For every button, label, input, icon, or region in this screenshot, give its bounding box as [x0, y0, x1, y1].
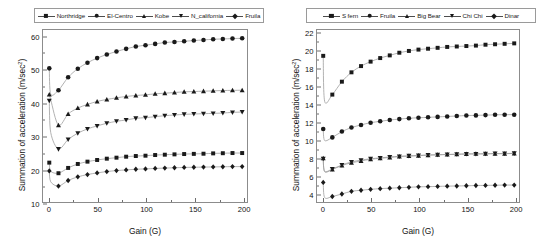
x-tick-label: 100	[140, 205, 153, 214]
legend-entry-fruila[interactable]: Fruila	[226, 11, 260, 20]
x-minor-tick	[220, 200, 221, 202]
y-tick-label: 40	[31, 99, 39, 108]
data-point	[153, 166, 158, 171]
x-minor-tick	[122, 200, 123, 202]
data-point	[321, 127, 326, 132]
legend-label: Fruila	[245, 12, 260, 19]
data-point	[105, 52, 110, 57]
data-point	[240, 164, 245, 169]
legend-marker-diamond-icon	[226, 11, 243, 20]
data-point	[512, 41, 516, 45]
y-tick	[317, 50, 321, 51]
data-point	[56, 183, 61, 188]
data-point	[211, 151, 215, 155]
data-point	[359, 64, 363, 68]
data-point	[321, 54, 325, 58]
data-point	[426, 115, 431, 120]
x-tick	[323, 198, 324, 202]
y-tick	[317, 176, 321, 177]
y-minor-tick	[43, 120, 45, 121]
data-point	[231, 151, 235, 155]
y-minor-tick	[317, 167, 319, 168]
legend-label: Chi Chi	[463, 12, 483, 19]
data-point	[378, 56, 382, 60]
series-fruila	[47, 164, 244, 189]
data-point	[182, 165, 187, 170]
data-point	[66, 75, 71, 80]
legend-marker-triangle-up-icon	[398, 11, 415, 20]
x-tick	[244, 198, 245, 202]
legend-marker-circle-icon	[361, 11, 378, 20]
x-minor-tick	[347, 200, 348, 202]
legend-marker-triangle-up-icon	[136, 11, 153, 20]
data-point	[388, 53, 392, 57]
y-tick	[317, 86, 321, 87]
chart-panel-left: NorthridgeEl-CentroKobeN_californiaFruil…	[0, 0, 272, 249]
data-point	[211, 37, 216, 42]
y-minor-tick	[317, 95, 319, 96]
x-minor-tick	[171, 200, 172, 202]
series-fruila	[321, 112, 517, 140]
legend-entry-kobe[interactable]: Kobe	[136, 11, 169, 20]
data-point	[484, 43, 488, 47]
data-point	[56, 171, 60, 175]
marker-glyph	[142, 14, 146, 18]
x-tick-label: 50	[367, 205, 375, 214]
legend-entry-big-bear[interactable]: Big Bear	[398, 11, 440, 20]
data-point	[201, 38, 206, 43]
data-point	[182, 39, 187, 44]
data-point	[426, 184, 431, 189]
data-point	[455, 45, 459, 49]
data-point	[230, 164, 235, 169]
data-point	[369, 60, 373, 64]
data-point	[76, 162, 80, 166]
series-northridge	[47, 151, 244, 175]
data-point	[75, 131, 80, 136]
legend-entry-s-fern[interactable]: S fern	[323, 11, 358, 20]
data-point	[95, 56, 100, 61]
data-point	[512, 112, 517, 117]
x-tick-label: 150	[189, 205, 202, 214]
data-point	[173, 152, 177, 156]
x-minor-tick	[73, 200, 74, 202]
legend-entry-chi-chi[interactable]: Chi Chi	[444, 11, 483, 20]
legend-entry-northridge[interactable]: Northridge	[38, 11, 85, 20]
y-tick	[317, 104, 321, 105]
y-minor-tick	[43, 187, 45, 188]
x-minor-tick	[395, 200, 396, 202]
data-point	[95, 158, 99, 162]
data-point	[163, 40, 168, 45]
y-minor-tick	[317, 41, 319, 42]
data-point	[340, 191, 345, 196]
legend-entry-n-california[interactable]: N_california	[172, 11, 223, 20]
data-point	[330, 135, 335, 140]
x-tick	[371, 198, 372, 202]
legend-marker-square-icon	[323, 11, 340, 20]
x-minor-tick	[444, 200, 445, 202]
y-axis-label-right: Summation of acceleration (m/sec2)	[291, 45, 302, 205]
data-point	[493, 183, 498, 188]
data-point	[201, 164, 206, 169]
marker-glyph	[367, 13, 372, 18]
data-point	[378, 119, 383, 124]
y-tick-label: 30	[31, 133, 39, 142]
data-point	[416, 116, 421, 121]
data-point	[416, 48, 420, 52]
data-point	[474, 113, 479, 118]
x-tick	[468, 198, 469, 202]
y-tick	[43, 170, 47, 171]
data-point	[114, 49, 119, 54]
data-point	[435, 184, 440, 189]
data-point	[349, 189, 354, 194]
legend-entry-el-centro[interactable]: El-Centro	[88, 11, 133, 20]
y-minor-tick	[43, 86, 45, 87]
data-point	[85, 60, 90, 65]
data-point	[349, 70, 353, 74]
data-point	[483, 113, 488, 118]
legend-entry-dinar[interactable]: Dinar	[486, 11, 520, 20]
data-point	[493, 42, 497, 46]
x-tick-label: 100	[413, 205, 426, 214]
y-tick	[317, 32, 321, 33]
data-point	[445, 183, 450, 188]
legend-entry-fruila[interactable]: Fruila	[361, 11, 395, 20]
